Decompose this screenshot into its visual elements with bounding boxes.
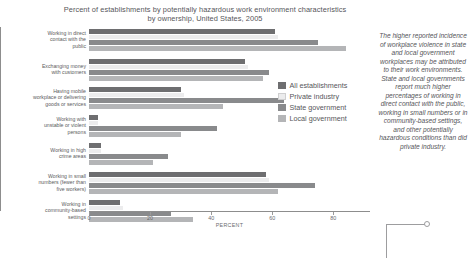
bar <box>89 46 346 51</box>
bar <box>89 115 98 120</box>
side-note-text: The higher reported incidence of workpla… <box>378 32 468 151</box>
legend-label: Private industry <box>290 92 340 101</box>
callout-circle-icon <box>424 221 430 227</box>
chart-title-line-2: by ownership, United States, 2005 <box>40 14 370 23</box>
bar <box>89 132 181 137</box>
legend-label: All establishments <box>290 81 348 90</box>
category-axis-labels: Working in directcontact with thepublicE… <box>0 27 86 211</box>
bar <box>89 154 168 159</box>
bar <box>89 126 217 131</box>
legend-swatch <box>278 115 286 123</box>
bar <box>89 35 278 40</box>
bar <box>89 149 101 154</box>
legend-item: State government <box>278 102 347 113</box>
chart-title-line-1: Percent of establishments by potentially… <box>40 5 370 14</box>
chart-title: Percent of establishments by potentially… <box>40 5 370 24</box>
bar <box>89 59 245 64</box>
category-label: Exchanging moneywith customers <box>2 63 86 75</box>
bar <box>89 93 184 98</box>
bar <box>89 211 171 216</box>
category-label-line: with customers <box>2 69 86 75</box>
bar <box>89 65 248 70</box>
category-label: Working withunstable or violentpersons <box>2 116 86 135</box>
bar <box>89 189 278 194</box>
x-tick-label: 40 <box>208 215 214 221</box>
category-label-line: crime areas <box>2 153 86 159</box>
category-label-line: public <box>2 43 86 49</box>
callout-rule-horizontal <box>386 224 426 225</box>
bar <box>89 143 101 148</box>
legend-swatch <box>278 93 286 101</box>
legend-swatch <box>278 82 286 90</box>
bar <box>89 172 266 177</box>
bar <box>89 70 269 75</box>
chart-legend: All establishmentsPrivate industryState … <box>278 80 347 124</box>
bar <box>89 40 318 45</box>
bar <box>89 98 284 103</box>
legend-swatch <box>278 104 286 112</box>
legend-label: State government <box>290 103 347 112</box>
x-tick-label: 80 <box>330 215 336 221</box>
bar <box>89 200 120 205</box>
bar <box>89 178 269 183</box>
category-label: Having mobileworkplace or deliveringgood… <box>2 88 86 107</box>
x-tick-label: 20 <box>147 215 153 221</box>
legend-label: Local government <box>290 114 347 123</box>
category-label-line: persons <box>2 129 86 135</box>
legend-item: Local government <box>278 113 347 124</box>
legend-item: Private industry <box>278 91 347 102</box>
category-label: Working incommunity-basedsettings <box>2 201 86 220</box>
bar <box>89 217 193 222</box>
category-label-line: five workers) <box>2 186 86 192</box>
x-axis-line <box>89 211 370 212</box>
category-label: Working in directcontact with thepublic <box>2 30 86 49</box>
bar <box>89 29 275 34</box>
figure-caption: 4 . 4 Workplace violence statistics base… <box>0 232 470 262</box>
category-label-line: settings <box>2 214 86 220</box>
bar <box>89 76 263 81</box>
bar <box>89 206 123 211</box>
bar <box>89 160 153 165</box>
figure-page: Percent of establishments by potentially… <box>0 0 470 262</box>
bar <box>89 121 98 126</box>
category-label: Working in highcrime areas <box>2 147 86 159</box>
bar <box>89 87 181 92</box>
bar <box>89 104 223 109</box>
x-tick-label: 0 <box>88 215 91 221</box>
category-label: Working in smallnumbers (fewer thanfive … <box>2 173 86 192</box>
x-tick-label: 60 <box>269 215 275 221</box>
bar <box>89 183 315 188</box>
category-label-line: goods or services <box>2 101 86 107</box>
y-axis-line <box>0 27 1 211</box>
legend-item: All establishments <box>278 80 347 91</box>
x-axis-title: PERCENT <box>89 222 370 228</box>
